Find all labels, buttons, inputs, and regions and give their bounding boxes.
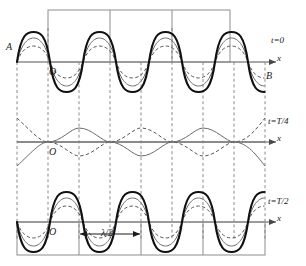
label-half-wavelength: λ/2 xyxy=(101,228,113,238)
axis-arrow-top xyxy=(17,59,276,65)
panel-tT4 xyxy=(17,118,276,166)
axis-arrow-bot xyxy=(17,219,276,225)
label-origin-mid: O xyxy=(49,147,56,157)
axis-label-x-mid: x xyxy=(277,134,281,143)
panel-tT2 xyxy=(17,192,276,252)
label-time-tT4: t=T/4 xyxy=(268,117,289,126)
label-time-t0: t=0 xyxy=(271,36,284,45)
half-wavelength-arrowhead-right xyxy=(133,231,140,237)
label-origin-bot: O xyxy=(49,227,56,237)
axis-label-x-top: x xyxy=(277,54,281,63)
half-wavelength-arrowhead-left xyxy=(80,231,87,237)
label-time-tT2: t=T/2 xyxy=(268,197,289,206)
axis-arrowhead-mid xyxy=(269,139,276,145)
standing-wave-figure xyxy=(0,0,306,266)
panel-t0 xyxy=(17,32,276,92)
axis-arrowhead-bot xyxy=(269,219,276,225)
label-origin-top: O xyxy=(49,67,56,77)
label-point-B: B xyxy=(266,71,272,81)
axis-arrowhead-top xyxy=(269,59,276,65)
label-point-A: A xyxy=(6,42,12,52)
axis-label-x-bot: x xyxy=(277,214,281,223)
top-frame xyxy=(48,10,230,62)
